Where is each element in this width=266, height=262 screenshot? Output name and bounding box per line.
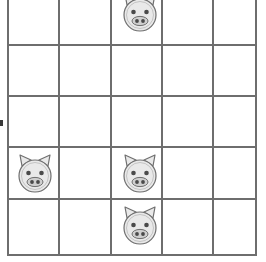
grid-cell[interactable] bbox=[212, 44, 257, 95]
grid-cell[interactable] bbox=[58, 44, 110, 95]
grid-line-vertical bbox=[212, 0, 214, 256]
grid-cell[interactable] bbox=[161, 146, 212, 198]
grid-line-vertical bbox=[58, 0, 60, 256]
grid-cell[interactable] bbox=[212, 0, 257, 44]
grid-line-horizontal bbox=[7, 44, 257, 46]
grid-line-horizontal bbox=[7, 198, 257, 200]
grid-cell[interactable] bbox=[212, 198, 257, 256]
grid-cell[interactable] bbox=[212, 146, 257, 198]
grid-cell[interactable] bbox=[110, 95, 161, 146]
grid-cell[interactable] bbox=[7, 95, 58, 146]
board-canvas bbox=[0, 0, 266, 262]
grid-cell[interactable] bbox=[161, 0, 212, 44]
grid-cell[interactable] bbox=[58, 0, 110, 44]
grid-line-horizontal bbox=[7, 146, 257, 148]
grid-cell[interactable] bbox=[161, 44, 212, 95]
grid-cell[interactable] bbox=[161, 198, 212, 256]
grid-line-horizontal bbox=[7, 254, 257, 256]
grid-cell[interactable] bbox=[58, 95, 110, 146]
grid-cell[interactable] bbox=[161, 95, 212, 146]
pig-face-icon[interactable] bbox=[13, 152, 57, 196]
grid-line-horizontal bbox=[7, 95, 257, 97]
grid-line-vertical bbox=[7, 0, 9, 256]
grid-cell[interactable] bbox=[58, 146, 110, 198]
pig-face-icon[interactable] bbox=[118, 152, 162, 196]
grid-cell[interactable] bbox=[7, 44, 58, 95]
pig-face-icon[interactable] bbox=[118, 204, 162, 248]
grid-line-vertical bbox=[255, 0, 257, 256]
grid-cell[interactable] bbox=[7, 0, 58, 44]
grid-cell[interactable] bbox=[58, 198, 110, 256]
grid-cell[interactable] bbox=[212, 95, 257, 146]
grid-cell[interactable] bbox=[7, 198, 58, 256]
grid-cell[interactable] bbox=[110, 44, 161, 95]
grid-line-vertical bbox=[110, 0, 112, 256]
left-edge-tick bbox=[0, 120, 3, 126]
pig-face-icon[interactable] bbox=[118, 0, 162, 35]
